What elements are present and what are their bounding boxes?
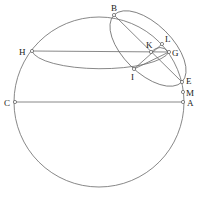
label-C: C [4,98,10,108]
label-G: G [172,48,179,58]
point-B [112,13,115,16]
point-G [167,50,170,53]
segment-IG [134,52,169,69]
point-I [132,67,135,70]
geometry-diagram: BLHKGIEMCA [0,0,198,201]
point-A [181,100,184,103]
point-K [149,50,152,53]
point-E [180,80,183,83]
label-M: M [186,88,194,98]
label-H: H [19,47,26,57]
label-L: L [165,34,171,44]
point-C [13,100,16,103]
label-E: E [186,76,192,86]
label-B: B [111,3,117,13]
label-I: I [131,72,134,82]
segment-HG [32,51,169,52]
label-K: K [146,40,153,50]
point-L [160,42,163,45]
horizontal-ellipse-lower-arc [32,51,169,69]
label-A: A [187,98,194,108]
point-M [181,90,184,93]
point-H [30,49,33,52]
